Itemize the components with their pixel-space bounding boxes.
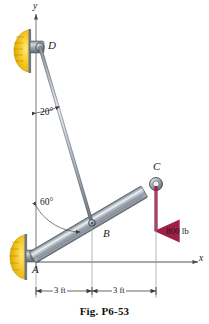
dimension-label-AB: 3 ft bbox=[53, 286, 67, 295]
wall-pad-D bbox=[14, 30, 30, 72]
point-label-D: D bbox=[48, 40, 56, 51]
joint-B bbox=[89, 220, 96, 227]
load-label-800lb: 800 lb bbox=[166, 227, 189, 236]
point-label-A: A bbox=[32, 264, 39, 275]
x-axis-label: x bbox=[199, 254, 203, 264]
y-axis-label: y bbox=[33, 2, 37, 12]
dimension-label-BC: 3 ft bbox=[112, 286, 126, 295]
figure-container: y x D B C A 20° 60° 800 lb 3 ft 3 ft Fig… bbox=[0, 0, 209, 324]
mechanics-diagram bbox=[0, 0, 209, 324]
figure-caption: Fig. P6-53 bbox=[0, 305, 209, 317]
angle-label-60deg: 60° bbox=[40, 198, 53, 208]
point-label-B: B bbox=[103, 228, 110, 239]
wall-pad-A bbox=[10, 235, 26, 279]
pin-B-hole bbox=[91, 222, 93, 224]
angle-label-20deg: 20° bbox=[40, 108, 53, 118]
member-AC-shade bbox=[38, 197, 143, 259]
point-label-C: C bbox=[153, 161, 160, 172]
